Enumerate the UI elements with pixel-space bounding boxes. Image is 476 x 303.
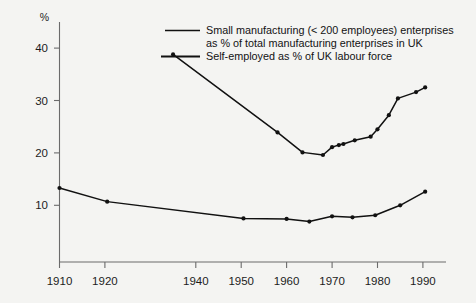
data-point bbox=[337, 143, 341, 147]
data-point bbox=[307, 219, 311, 223]
x-tick-label-1980: 1980 bbox=[365, 275, 391, 287]
data-point bbox=[321, 153, 325, 157]
data-point bbox=[373, 213, 377, 217]
data-point bbox=[350, 215, 354, 219]
data-point bbox=[369, 135, 373, 139]
x-tick-label-1970: 1970 bbox=[319, 275, 345, 287]
y-tick-label-20: 20 bbox=[35, 147, 48, 159]
data-point bbox=[353, 138, 357, 142]
data-point bbox=[423, 85, 427, 89]
y-tick-label-30: 30 bbox=[35, 95, 48, 107]
data-point bbox=[423, 190, 427, 194]
y-tick-label-40: 40 bbox=[35, 42, 48, 54]
x-tick-label-1910: 1910 bbox=[47, 275, 73, 287]
data-point bbox=[241, 216, 245, 220]
x-tick-label-1950: 1950 bbox=[228, 275, 254, 287]
data-point bbox=[330, 145, 334, 149]
data-point bbox=[275, 130, 279, 134]
data-point bbox=[387, 113, 391, 117]
data-point bbox=[396, 96, 400, 100]
legend-label-small-manufacturing-line2: as % of total manufacturing enterprises … bbox=[206, 37, 423, 49]
data-point bbox=[414, 90, 418, 94]
x-tick-label-1920: 1920 bbox=[92, 275, 118, 287]
data-point bbox=[341, 142, 345, 146]
legend-label-self-employed-line1: Self-employed as % of UK labour force bbox=[206, 50, 392, 62]
data-point bbox=[105, 200, 109, 204]
x-tick-label-1940: 1940 bbox=[183, 275, 209, 287]
data-point bbox=[285, 217, 289, 221]
x-tick-label-1990: 1990 bbox=[410, 275, 436, 287]
data-point bbox=[398, 203, 402, 207]
y-tick-label-10: 10 bbox=[35, 199, 48, 211]
data-point bbox=[300, 150, 304, 154]
chart-svg: 40 30 20 10 % 1910 1920 1940 1950 1960 1… bbox=[0, 0, 476, 303]
y-axis-unit-label: % bbox=[40, 11, 49, 23]
legend-label-small-manufacturing-line1: Small manufacturing (< 200 employees) en… bbox=[206, 24, 454, 36]
x-tick-label-1960: 1960 bbox=[274, 275, 300, 287]
chart-figure: 40 30 20 10 % 1910 1920 1940 1950 1960 1… bbox=[0, 0, 476, 303]
data-point bbox=[57, 186, 61, 190]
data-point bbox=[375, 127, 379, 131]
data-point bbox=[330, 214, 334, 218]
